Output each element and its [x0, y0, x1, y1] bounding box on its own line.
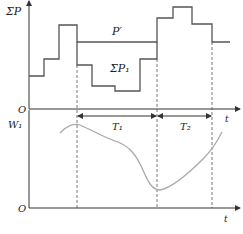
sum-p1-label: ΣP₁	[109, 62, 130, 75]
w1-curve	[60, 124, 222, 190]
w1-axis-label: W₁	[8, 119, 22, 130]
interval-t-label: t	[225, 114, 229, 124]
diagram-canvas: ΣP O P′ ΣP₁ T₁ T₂ t W₁ O t	[0, 0, 243, 234]
sum-p-axis-label: ΣP	[5, 5, 22, 18]
dashed-guides	[77, 42, 212, 208]
bottom-origin-label: O	[18, 203, 26, 214]
top-origin-label: O	[18, 104, 26, 115]
t2-label: T₂	[180, 121, 191, 132]
bottom-t-label: t	[224, 214, 228, 224]
p-prime-label: P′	[111, 25, 122, 38]
t1-label: T₁	[112, 121, 123, 132]
